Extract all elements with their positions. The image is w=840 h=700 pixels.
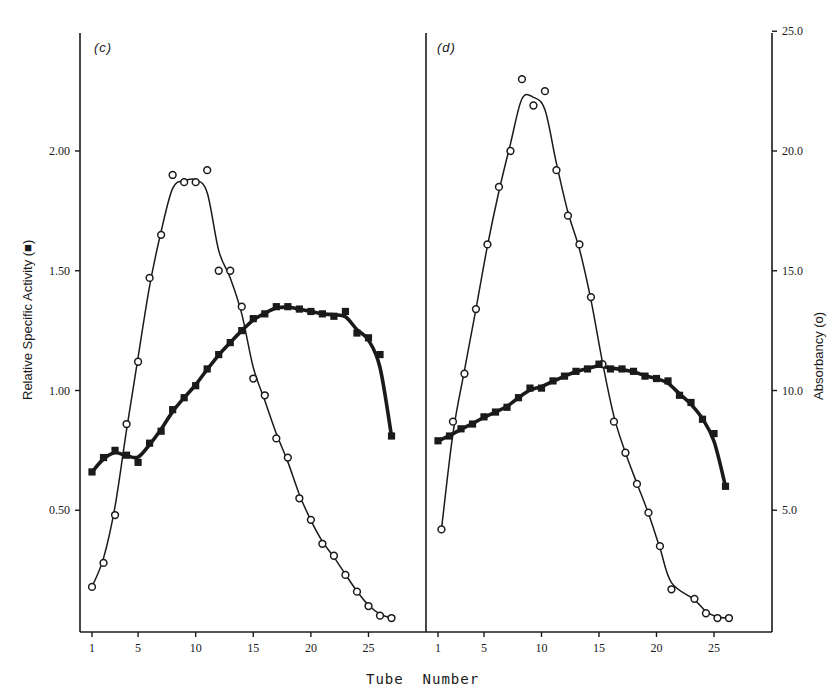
y-right-tick-label: 20.0 <box>782 144 803 158</box>
specific-activity-point <box>480 413 487 420</box>
absorbancy-point <box>342 572 349 579</box>
absorbancy-point <box>169 172 176 179</box>
specific-activity-point <box>342 308 349 315</box>
specific-activity-point <box>572 368 579 375</box>
specific-activity-point <box>227 339 234 346</box>
absorbancy-point <box>530 102 537 109</box>
y-left-axis-title: Relative Specific Activity (■) <box>20 240 35 400</box>
chromatography-figure: 151015202515101520252.001.501.000.5025.0… <box>0 0 840 700</box>
y-right-tick-label: 10.0 <box>782 384 803 398</box>
absorbancy-point <box>227 267 234 274</box>
specific-activity-point <box>204 365 211 372</box>
specific-activity-point <box>376 351 383 358</box>
specific-activity-point <box>630 368 637 375</box>
absorbancy-point <box>273 435 280 442</box>
y-left-tick-label: 2.00 <box>49 144 70 158</box>
y-right-axis-title: Absorbancy (o) <box>811 312 826 400</box>
absorbancy-point <box>507 148 514 155</box>
specific-activity-point <box>469 420 476 427</box>
specific-activity-point <box>365 334 372 341</box>
y-left-tick-label: 1.50 <box>49 264 70 278</box>
specific-activity-point <box>100 454 107 461</box>
x-tick-label: 10 <box>536 641 548 655</box>
specific-activity-point <box>699 416 706 423</box>
absorbancy-point <box>668 586 675 593</box>
absorbancy-point <box>307 516 314 523</box>
specific-activity-point <box>111 447 118 454</box>
x-tick-label: 25 <box>362 641 374 655</box>
y-right-tick-label: 5.0 <box>782 503 797 517</box>
specific-activity-point <box>169 406 176 413</box>
specific-activity-point <box>134 459 141 466</box>
specific-activity-point <box>146 440 153 447</box>
fitted-curves <box>92 94 729 618</box>
absorbancy-point <box>331 552 338 559</box>
y-right-tick-label: 25.0 <box>782 24 803 38</box>
specific-activity-point <box>261 310 268 317</box>
specific-activity-point <box>319 310 326 317</box>
absorbancy-point <box>703 610 710 617</box>
absorbancy-point <box>726 615 733 622</box>
absorbancy-point <box>438 526 445 533</box>
absorbancy-point <box>296 495 303 502</box>
specific-activity-point <box>273 303 280 310</box>
absorbancy-point <box>588 294 595 301</box>
x-tick-label: 1 <box>89 641 95 655</box>
absorbancy-point <box>645 509 652 516</box>
absorbancy-point <box>354 588 361 595</box>
absorbancy-point <box>238 303 245 310</box>
specific-activity-point <box>492 408 499 415</box>
absorbancy-point <box>576 241 583 248</box>
specific-activity-point <box>607 365 614 372</box>
specific-activity-point <box>434 437 441 444</box>
absorbancy-point <box>611 418 618 425</box>
absorbancy-point <box>622 449 629 456</box>
absorbancy-point <box>365 603 372 610</box>
specific-activity-point <box>181 394 188 401</box>
absorbancy-point <box>473 306 480 313</box>
specific-activity-point <box>561 373 568 380</box>
absorbancy-point <box>634 481 641 488</box>
absorbancy-point <box>461 370 468 377</box>
specific-activity-point <box>250 315 257 322</box>
x-tick-label: 25 <box>708 641 720 655</box>
absorbancy-point <box>123 421 130 428</box>
specific-activity-point <box>676 392 683 399</box>
x-tick-label: 5 <box>481 641 487 655</box>
absorbancy-point <box>377 612 384 619</box>
axes <box>80 33 772 632</box>
absorbancy-point <box>261 392 268 399</box>
absorbancy-point <box>158 231 165 238</box>
specific-activity-point <box>503 404 510 411</box>
specific-activity-curve <box>438 366 726 486</box>
absorbancy-point <box>565 212 572 219</box>
specific-activity-point <box>710 430 717 437</box>
x-tick-label: 15 <box>593 641 605 655</box>
absorbancy-point <box>484 241 491 248</box>
absorbancy-point <box>714 615 721 622</box>
y-left-tick-label: 0.50 <box>49 503 70 517</box>
specific-activity-point <box>330 313 337 320</box>
absorbancy-point <box>519 76 526 83</box>
panel-label-c: (c) <box>94 40 112 55</box>
specific-activity-point <box>538 385 545 392</box>
absorbancy-point <box>181 179 188 186</box>
y-left-tick-label: 1.00 <box>49 384 70 398</box>
absorbancy-curve <box>441 94 729 618</box>
specific-activity-point <box>722 483 729 490</box>
specific-activity-point <box>388 432 395 439</box>
absorbancy-point <box>319 540 326 547</box>
absorbancy-point <box>450 418 457 425</box>
specific-activity-point <box>215 351 222 358</box>
specific-activity-point <box>664 377 671 384</box>
specific-activity-point <box>446 432 453 439</box>
specific-activity-point <box>284 303 291 310</box>
absorbancy-point <box>250 375 257 382</box>
x-tick-label: 20 <box>651 641 663 655</box>
specific-activity-point <box>641 373 648 380</box>
specific-activity-point <box>549 377 556 384</box>
absorbancy-point <box>146 275 153 282</box>
specific-activity-point <box>88 468 95 475</box>
specific-activity-point <box>526 385 533 392</box>
specific-activity-point <box>296 305 303 312</box>
